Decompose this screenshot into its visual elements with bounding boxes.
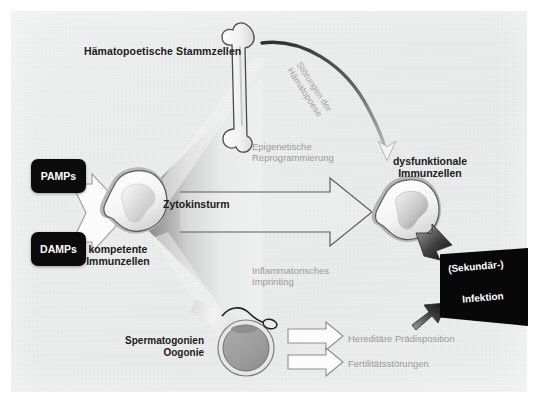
label-dysfunctional-immune-cells: dysfunktionale Immunzellen: [382, 155, 478, 180]
label-epigenetic-reprogramming: Epigenetische Reprogrammierung: [252, 141, 334, 163]
figure-canvas: Hämatopoetische Stammzellen Zytokinsturm…: [0, 0, 538, 414]
label-competent-immune-cells: kompetente Immunzellen: [74, 243, 162, 268]
chip-damps: DAMPs: [31, 232, 86, 266]
infection-line-1: (Sekundär-): [448, 259, 504, 275]
label-fertility-disorders: Fertilitätsstörungen: [348, 358, 429, 369]
chip-pamps: PAMPs: [31, 159, 86, 193]
label-cytokine-storm: Zytokinsturm: [163, 198, 230, 210]
hereditary-arrow-icon: [288, 322, 343, 350]
label-spermatogonia-oogonia: Spermatogonien Oogonie: [74, 335, 204, 359]
dysfunctional-immune-cell-icon: [372, 176, 441, 242]
label-inflammatory-imprinting: Inflammatorisches Imprinting: [252, 265, 329, 287]
fertility-arrow-icon: [288, 348, 343, 376]
infection-line-2: Infektion: [462, 290, 504, 305]
label-hereditary-predisposition: Hereditäre Prädisposition: [348, 333, 455, 344]
oocyte-icon: [218, 320, 274, 376]
infection-box: (Sekundär-) Infektion: [440, 248, 528, 326]
label-hematopoietic-stem-cells: Hämatopoetische Stammzellen: [84, 45, 241, 57]
